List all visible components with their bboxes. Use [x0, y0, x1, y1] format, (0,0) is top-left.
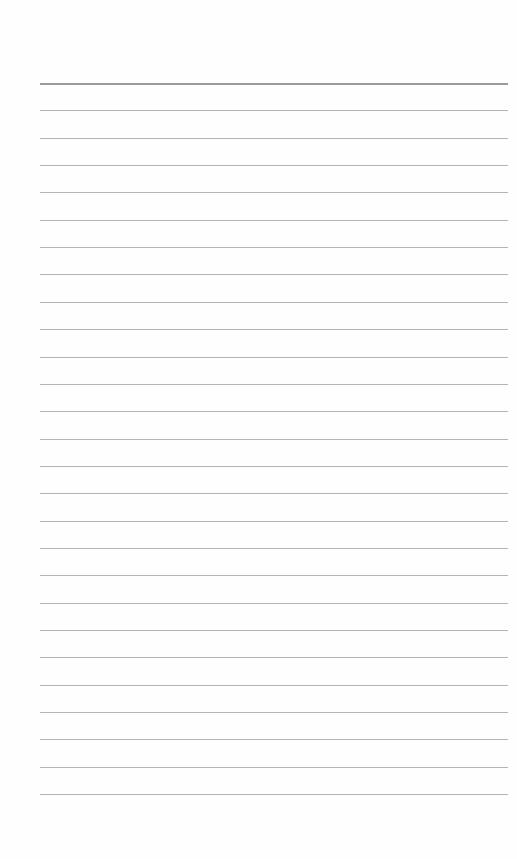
ruled-line: [40, 521, 508, 522]
ruled-line: [40, 794, 508, 795]
ruled-line: [40, 220, 508, 221]
ruled-line: [40, 575, 508, 576]
ruled-line: [40, 603, 508, 604]
ruled-line: [40, 439, 508, 440]
ruled-line: [40, 329, 508, 330]
ruled-line: [40, 138, 508, 139]
ruled-line: [40, 712, 508, 713]
ruled-line: [40, 548, 508, 549]
ruled-line: [40, 165, 508, 166]
ruled-line: [40, 357, 508, 358]
ruled-line: [40, 384, 508, 385]
ruled-line: [40, 657, 508, 658]
ruled-line: [40, 302, 508, 303]
ruled-line: [40, 274, 508, 275]
ruled-line: [40, 110, 508, 111]
header-rule-line: [40, 83, 508, 85]
ruled-line: [40, 630, 508, 631]
ruled-line: [40, 247, 508, 248]
ruled-line: [40, 739, 508, 740]
ruled-line: [40, 685, 508, 686]
ruled-line: [40, 767, 508, 768]
ruled-line: [40, 466, 508, 467]
ruled-line: [40, 411, 508, 412]
lined-paper-page: [0, 0, 517, 859]
ruled-line: [40, 493, 508, 494]
ruled-line: [40, 192, 508, 193]
